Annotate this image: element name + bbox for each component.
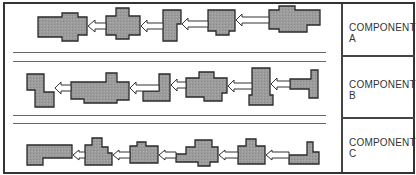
left-arrow-icon xyxy=(236,14,269,26)
left-arrow-icon xyxy=(271,78,290,90)
part-shape xyxy=(176,140,218,166)
part-shape xyxy=(106,8,140,39)
left-arrow-icon xyxy=(171,79,186,91)
part-shape xyxy=(249,68,273,105)
component-shapes xyxy=(0,0,416,175)
left-arrow-icon xyxy=(141,20,163,32)
part-shape xyxy=(85,138,112,165)
part-shape xyxy=(38,13,87,41)
left-arrow-icon xyxy=(73,150,85,160)
left-arrow-icon xyxy=(266,150,289,160)
left-arrow-icon xyxy=(88,20,106,32)
left-arrow-icon xyxy=(182,18,208,30)
left-arrow-icon xyxy=(55,82,71,94)
left-arrow-icon xyxy=(113,150,130,160)
part-shape xyxy=(186,72,227,101)
part-shape xyxy=(71,73,129,103)
part-shape xyxy=(238,139,265,164)
part-shape xyxy=(27,74,54,107)
part-shape xyxy=(290,70,318,98)
left-arrow-icon xyxy=(159,150,176,160)
part-shape xyxy=(289,142,319,164)
part-shape xyxy=(27,145,72,165)
row-a-parts xyxy=(38,6,320,41)
left-arrow-icon xyxy=(219,150,238,160)
part-shape xyxy=(208,10,235,35)
left-arrow-icon xyxy=(228,80,252,92)
part-shape xyxy=(130,142,158,163)
part-shape xyxy=(269,6,320,32)
part-shape xyxy=(163,10,181,41)
